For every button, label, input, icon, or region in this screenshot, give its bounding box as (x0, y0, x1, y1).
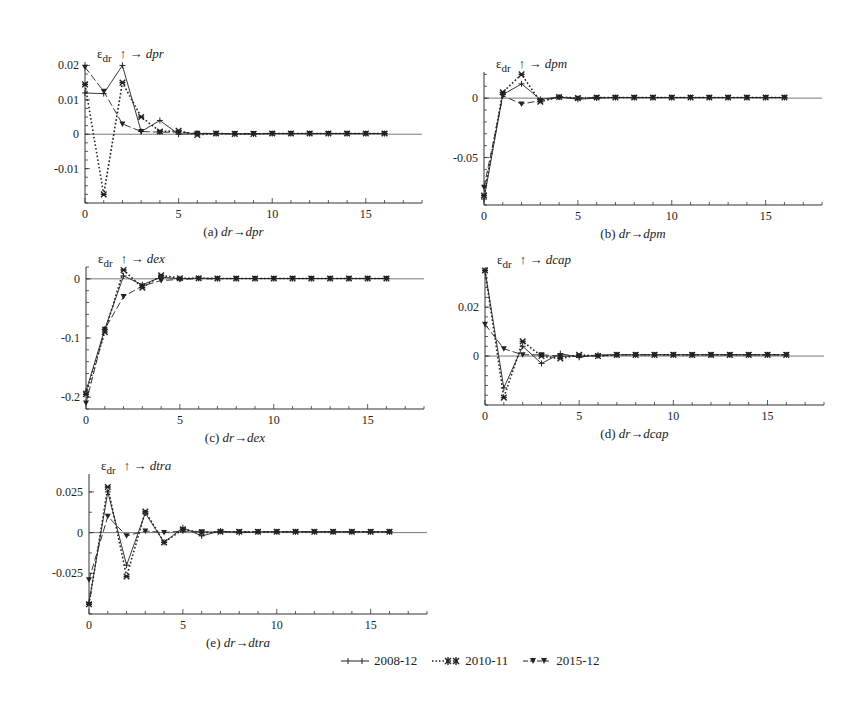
chart-title: εdr↑ → dtra (101, 458, 172, 476)
x-tick-label: 0 (481, 209, 487, 223)
series-2008-12 (83, 273, 389, 394)
series-2010-11 (86, 484, 392, 607)
series-2008-12 (86, 489, 392, 606)
x-tick-label: 0 (83, 413, 89, 427)
y-tick-label: 0.02 (58, 58, 79, 72)
x-tick-label: 5 (176, 207, 182, 221)
x-tick-label: 15 (362, 413, 374, 427)
y-tick-label: -0.025 (52, 566, 83, 580)
x-tick-label: 0 (82, 207, 88, 221)
chart-title: εdr↑ → dcap (497, 252, 571, 270)
y-tick-label: -0.05 (453, 151, 478, 165)
chart-title: εdr↑ → dex (98, 251, 165, 269)
y-tick-label: 0 (74, 272, 80, 286)
figure-canvas: 051015-0.0100.010.02εdr↑ → dpr(a) dr→dpr… (0, 0, 860, 716)
chart-title: εdr↑ → dpr (97, 46, 165, 64)
x-tick-label: 15 (762, 409, 774, 423)
chart-caption: (c) dr→dex (205, 430, 266, 445)
series-2015-12 (481, 93, 787, 190)
y-tick-label: 0 (73, 127, 79, 141)
series-2015-12 (82, 65, 388, 137)
x-tick-label: 15 (760, 209, 772, 223)
series-2010-11 (481, 72, 787, 199)
x-tick-label: 5 (575, 209, 581, 223)
x-tick-label: 10 (666, 209, 678, 223)
chart-panel-c: 051015-0.2-0.10εdr↑ → dex(c) dr→dex (61, 251, 424, 445)
legend-label: 2010-11 (465, 653, 508, 669)
chart-panel-a: 051015-0.0100.010.02εdr↑ → dpr(a) dr→dpr (54, 46, 422, 239)
chart-panel-b: 051015-0.050εdr↑ → dpm(b) dr→dpm (453, 56, 822, 241)
series-2008-12 (482, 267, 789, 390)
chart-caption: (e) dr→dtra (206, 635, 270, 650)
chart-title: εdr↑ → dpm (496, 56, 567, 74)
legend-label: 2015-12 (556, 653, 599, 669)
chart-caption: (d) dr→dcap (600, 426, 669, 441)
x-tick-label: 5 (177, 413, 183, 427)
plus-marker-icon (340, 656, 370, 666)
legend-item-2015-12: 2015-12 (522, 653, 599, 669)
series-2010-11 (83, 267, 389, 397)
chart-caption: (b) dr→dpm (600, 226, 665, 241)
series-2015-12 (83, 276, 389, 406)
y-tick-label: -0.2 (61, 390, 80, 404)
x-tick-label: 15 (360, 207, 372, 221)
legend-item-2008-12: 2008-12 (340, 653, 417, 669)
y-tick-label: 0 (77, 526, 83, 540)
triangle-down-marker-icon (522, 656, 552, 666)
x-tick-label: 5 (576, 409, 582, 423)
legend-label: 2008-12 (374, 653, 417, 669)
series-2015-12 (482, 322, 789, 359)
x-tick-label: 5 (180, 618, 186, 632)
y-tick-label: -0.01 (54, 162, 79, 176)
series-2015-12 (86, 514, 392, 583)
chart-panel-d: 05101500.02εdr↑ → dcap(d) dr→dcap (458, 252, 824, 441)
x-tick-label: 15 (365, 618, 377, 632)
x-tick-label: 10 (266, 207, 278, 221)
x-tick-label: 10 (268, 413, 280, 427)
chart-panel-e: 051015-0.02500.025εdr↑ → dtra(e) dr→dtra (52, 458, 427, 650)
y-tick-label: -0.1 (61, 331, 80, 345)
series-2010-11 (82, 80, 388, 197)
legend-item-2010-11: 2010-11 (431, 653, 508, 669)
chart-caption: (a) dr→dpr (203, 224, 264, 239)
series-2010-11 (482, 268, 789, 401)
x-star-marker-icon (431, 656, 461, 666)
y-tick-label: 0 (472, 91, 478, 105)
y-tick-label: 0.01 (58, 93, 79, 107)
y-tick-label: 0.02 (458, 300, 479, 314)
x-tick-label: 10 (271, 618, 283, 632)
x-tick-label: 10 (667, 409, 679, 423)
y-tick-label: 0 (473, 349, 479, 363)
x-tick-label: 0 (86, 618, 92, 632)
x-tick-label: 0 (482, 409, 488, 423)
legend: 2008-12 2010-11 2015-12 (340, 652, 600, 670)
y-tick-label: 0.025 (56, 485, 83, 499)
